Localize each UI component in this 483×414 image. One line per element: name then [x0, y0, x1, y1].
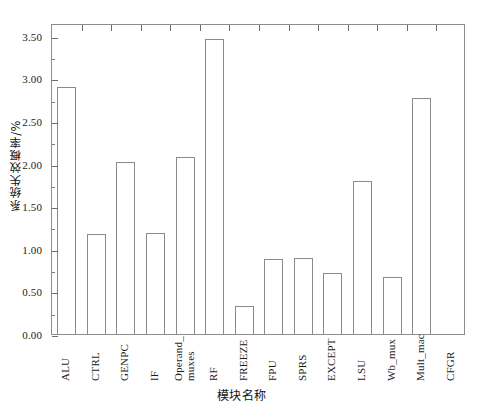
x-axis-tick [141, 25, 142, 31]
y-axis-tick-label: 1.00 [0, 245, 42, 256]
bar [116, 162, 135, 334]
y-axis-minor-tick [52, 315, 55, 316]
y-axis-tick [52, 336, 58, 337]
x-axis-tick-label: FPU [267, 360, 279, 381]
x-axis-title: 模块名称 [0, 389, 483, 403]
chart-figure: 系统失效概率/% 模块名称 0.000.501.001.502.002.503.… [0, 0, 483, 414]
x-axis-tick [111, 25, 112, 31]
y-axis-minor-tick [52, 229, 55, 230]
x-axis-tick-label: LSU [356, 360, 368, 381]
x-axis-tick-label: CTRL [90, 352, 102, 381]
y-axis-tick-label: 2.50 [0, 117, 42, 128]
y-axis-minor-tick [52, 144, 55, 145]
x-axis-tick [82, 25, 83, 31]
bar [353, 181, 372, 334]
x-axis-tick-label: EXCEPT [326, 338, 338, 381]
bar [323, 273, 342, 334]
y-axis-tick-label: 3.00 [0, 74, 42, 85]
x-axis-tick [377, 25, 378, 31]
x-axis-tick [229, 25, 230, 31]
y-axis-tick-label: 0.50 [0, 287, 42, 298]
x-axis-tick [200, 25, 201, 31]
y-axis-tick [52, 208, 58, 209]
y-axis-minor-tick [52, 102, 55, 103]
x-axis-tick [259, 25, 260, 31]
bar [294, 258, 313, 334]
y-axis-tick [52, 251, 58, 252]
x-axis-tick [436, 25, 437, 31]
y-axis-tick-label: 1.50 [0, 202, 42, 213]
y-axis-tick [52, 38, 58, 39]
x-axis-tick-label: Operand_muxes [173, 297, 196, 381]
bar [235, 306, 254, 334]
x-axis-tick [289, 25, 290, 31]
plot-area [51, 24, 465, 335]
x-axis-tick [348, 25, 349, 31]
x-axis-tick-label: SPRS [297, 355, 309, 382]
x-axis-tick [407, 25, 408, 31]
y-axis-tick [52, 80, 58, 81]
x-axis-tick-label: GENPC [119, 344, 131, 381]
bar [264, 259, 283, 334]
x-axis-tick-label: ALU [60, 358, 72, 381]
y-axis-minor-tick [52, 272, 55, 273]
y-axis-tick-label: 3.50 [0, 32, 42, 43]
bar [205, 39, 224, 334]
bar [146, 233, 165, 334]
y-axis-tick-label: 0.00 [0, 330, 42, 341]
y-axis-tick [52, 166, 58, 167]
x-axis-tick-label: CFGR [445, 351, 457, 381]
bar [412, 98, 431, 334]
y-axis-minor-tick [52, 59, 55, 60]
bar [57, 87, 76, 334]
x-axis-tick-label: Mult_mac [415, 334, 427, 381]
x-axis-tick [170, 25, 171, 31]
x-axis-tick-label: FREEZE [238, 339, 250, 381]
y-axis-tick [52, 293, 58, 294]
x-axis-tick-label: IF [149, 371, 161, 381]
y-axis-tick-label: 2.00 [0, 160, 42, 171]
x-axis-tick-label: Wb_mux [386, 339, 398, 381]
bar [87, 234, 106, 334]
y-axis-minor-tick [52, 187, 55, 188]
x-axis-tick-label: RF [208, 367, 220, 381]
y-axis-tick [52, 123, 58, 124]
bar [383, 277, 402, 334]
x-axis-tick [318, 25, 319, 31]
